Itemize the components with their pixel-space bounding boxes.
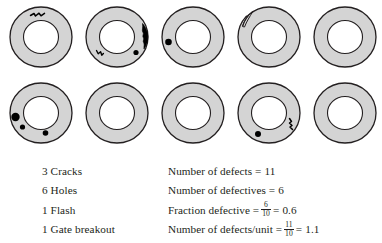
stat-fraction-value: 0.6: [282, 201, 296, 220]
ring-inner-8: [176, 97, 211, 130]
parts-grid: [0, 0, 382, 152]
defect-tally-flash: 1 Flash: [42, 201, 162, 220]
hole-icon: [11, 113, 19, 121]
stat-defects-value: 11: [265, 162, 276, 181]
ring-inner-10: [328, 97, 363, 130]
stat-defects-per-unit-label: Number of defects/unit =: [168, 220, 282, 239]
stat-defectives-label: Number of defectives =: [168, 181, 275, 200]
ring-inner-6: [24, 97, 59, 130]
ring-inner-4: [252, 21, 287, 54]
stat-number-of-defectives: Number of defectives = 6: [168, 181, 382, 200]
ring-inner-5: [328, 21, 363, 54]
fraction-numerator: 6: [263, 201, 269, 209]
defect-tally-gate-breakout: 1 Gate breakout: [42, 220, 162, 239]
hole-icon: [20, 124, 25, 129]
stat-fraction-defective: Fraction defective = 6 10 = 0.6: [168, 201, 382, 220]
statistics-list: Number of defects = 11 Number of defecti…: [168, 162, 382, 239]
hole-icon: [133, 50, 138, 55]
hole-icon: [165, 39, 172, 46]
ring-inner-7: [100, 97, 135, 130]
stat-defects-label: Number of defects =: [168, 162, 261, 181]
part-3: [158, 4, 230, 70]
part-4: [234, 4, 306, 70]
part-9: [234, 80, 306, 146]
hole-icon: [255, 131, 261, 137]
stat-number-of-defects: Number of defects = 11: [168, 162, 382, 181]
stat-defects-per-unit-value: 1.1: [305, 220, 319, 239]
defect-tally-holes: 6 Holes: [42, 181, 162, 200]
fraction-equals-sign: =: [296, 220, 302, 239]
stat-defectives-value: 6: [278, 181, 284, 200]
fraction-eleven-tenths: 11 10: [284, 221, 294, 238]
fraction-numerator: 11: [284, 221, 293, 229]
part-5: [310, 4, 382, 70]
ring-inner-2: [100, 21, 135, 54]
ring-inner-1: [24, 21, 59, 54]
hole-icon: [43, 130, 49, 136]
defect-tally-list: 3 Cracks 6 Holes 1 Flash 1 Gate breakout: [42, 162, 162, 239]
part-2: [82, 4, 154, 70]
part-6: [6, 80, 78, 146]
part-1: [6, 4, 78, 70]
ring-inner-3: [176, 21, 211, 54]
fraction-equals-sign: =: [273, 201, 279, 220]
stat-fraction-label: Fraction defective =: [168, 201, 259, 220]
inspection-figure: 3 Cracks 6 Holes 1 Flash 1 Gate breakout…: [0, 0, 382, 243]
ring-inner-9: [252, 97, 287, 130]
fraction-denominator: 10: [261, 209, 271, 218]
defect-tally-cracks: 3 Cracks: [42, 162, 162, 181]
fraction-six-tenths: 6 10: [261, 201, 271, 218]
part-8: [158, 80, 230, 146]
stat-defects-per-unit: Number of defects/unit = 11 10 = 1.1: [168, 220, 382, 239]
summary-section: 3 Cracks 6 Holes 1 Flash 1 Gate breakout…: [0, 158, 382, 243]
part-7: [82, 80, 154, 146]
fraction-denominator: 10: [284, 229, 294, 238]
part-10: [310, 80, 382, 146]
